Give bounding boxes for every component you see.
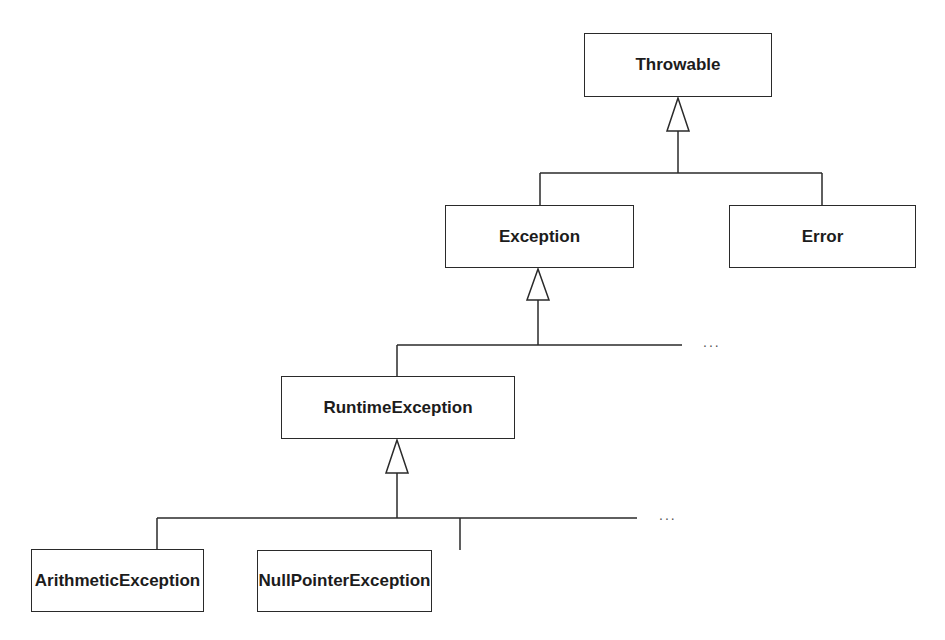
class-throwable: Throwable [584,33,772,97]
class-error: Error [729,205,916,268]
class-label: Exception [499,227,580,247]
ellipsis-more-runtime-subclasses: ... [659,507,677,523]
connector-lines [0,0,945,640]
class-label: Error [802,227,844,247]
class-label: ArithmeticException [35,571,200,591]
class-label: Throwable [635,55,720,75]
ellipsis-more-exception-subclasses: ... [703,334,721,350]
class-null-pointer-exception: NullPointerException [257,550,432,612]
generalization-arrow-exception [527,269,549,300]
generalization-arrow-runtime [386,440,408,473]
class-exception: Exception [445,205,634,268]
class-label: NullPointerException [259,571,431,591]
generalization-arrow-throwable [667,98,689,131]
class-arithmetic-exception: ArithmeticException [31,549,204,612]
class-runtime-exception: RuntimeException [281,376,515,439]
class-label: RuntimeException [323,398,472,418]
